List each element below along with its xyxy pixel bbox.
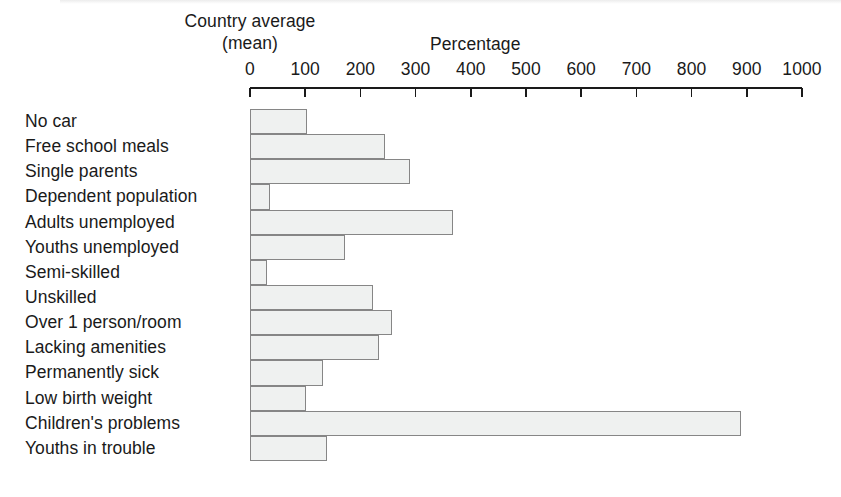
category-label: Over 1 person/room <box>25 310 240 335</box>
country-average-line1: Country average <box>120 10 380 32</box>
bar <box>250 184 270 209</box>
country-average-line2: (mean) <box>120 32 380 54</box>
bar-row <box>250 335 802 360</box>
percentage-axis-title: Percentage <box>430 33 521 55</box>
bar <box>250 411 741 436</box>
category-label: Free school meals <box>25 134 240 159</box>
category-label-list: No carFree school mealsSingle parentsDep… <box>25 109 240 461</box>
bar <box>250 386 306 411</box>
bar-row <box>250 285 802 310</box>
x-axis-tick-label: 800 <box>677 59 707 79</box>
x-axis-tick-label: 700 <box>622 59 652 79</box>
bar-row <box>250 159 802 184</box>
country-average-heading: Country average (mean) <box>120 10 380 54</box>
x-axis-tick-label: 400 <box>456 59 486 79</box>
bar-chart-figure: Country average (mean) Percentage No car… <box>0 0 841 497</box>
bar <box>250 109 307 134</box>
bar <box>250 134 385 159</box>
bar <box>250 285 373 310</box>
scan-edge-band <box>60 0 841 4</box>
bar <box>250 210 453 235</box>
x-axis-tick-label: 100 <box>290 59 320 79</box>
category-label: Youths in trouble <box>25 436 240 461</box>
bars-plot-area <box>250 109 802 461</box>
bar-row <box>250 184 802 209</box>
bar-row <box>250 134 802 159</box>
category-label: Permanently sick <box>25 360 240 385</box>
category-label: Unskilled <box>25 285 240 310</box>
bar-row <box>250 436 802 461</box>
category-label: Adults unemployed <box>25 210 240 235</box>
bar-row <box>250 235 802 260</box>
scan-edge-left <box>0 0 60 3</box>
category-label: Dependent population <box>25 184 240 209</box>
bar-row <box>250 360 802 385</box>
x-axis-tick-label: 300 <box>401 59 431 79</box>
category-label: Youths unemployed <box>25 235 240 260</box>
bar <box>250 310 392 335</box>
bar-row <box>250 210 802 235</box>
bar <box>250 235 345 260</box>
category-label: No car <box>25 109 240 134</box>
category-label: Single parents <box>25 159 240 184</box>
bar-row <box>250 411 802 436</box>
bar <box>250 436 327 461</box>
x-axis-tick-label: 900 <box>732 59 762 79</box>
bar <box>250 335 379 360</box>
bar <box>250 360 323 385</box>
bar-row <box>250 386 802 411</box>
x-axis-tick-label: 0 <box>245 59 255 79</box>
category-label: Children's problems <box>25 411 240 436</box>
x-axis-tick-label: 600 <box>566 59 596 79</box>
x-axis-tick-label: 1000 <box>782 59 821 79</box>
bar <box>250 159 410 184</box>
x-axis-tick-label: 500 <box>511 59 541 79</box>
category-label: Low birth weight <box>25 386 240 411</box>
category-label: Semi-skilled <box>25 260 240 285</box>
bar-row <box>250 260 802 285</box>
bar-row <box>250 310 802 335</box>
category-label: Lacking amenities <box>25 335 240 360</box>
bar-row <box>250 109 802 134</box>
x-axis-tick-label: 200 <box>346 59 376 79</box>
bar <box>250 260 267 285</box>
